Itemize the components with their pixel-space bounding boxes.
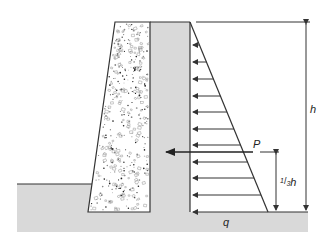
label-p: P [253, 138, 261, 150]
aggregate-speck [139, 94, 141, 96]
aggregate-speck [127, 43, 128, 44]
aggregate-speck [115, 88, 116, 89]
aggregate-speck [90, 205, 91, 206]
aggregate-speck [140, 97, 141, 98]
aggregate-speck [98, 155, 99, 156]
aggregate-speck [136, 107, 138, 109]
aggregate-speck [112, 192, 113, 193]
aggregate-speck [136, 192, 137, 193]
aggregate-speck [147, 27, 149, 29]
aggregate-speck [104, 108, 105, 109]
aggregate-speck [144, 84, 145, 85]
aggregate-speck [136, 56, 138, 58]
aggregate-speck [144, 172, 146, 174]
aggregate-speck [123, 170, 125, 172]
aggregate-speck [114, 171, 115, 172]
aggregate-speck [131, 136, 132, 137]
aggregate-speck [133, 164, 134, 165]
aggregate-speck [100, 199, 101, 200]
aggregate-speck [123, 34, 124, 35]
aggregate-speck [112, 99, 113, 100]
aggregate-speck [114, 64, 116, 66]
aggregate-speck [110, 94, 111, 95]
aggregate-speck [110, 135, 111, 136]
aggregate-speck [120, 26, 121, 27]
aggregate-speck [127, 105, 128, 106]
aggregate-speck [104, 113, 106, 115]
aggregate-speck [110, 172, 111, 173]
aggregate-speck [144, 109, 145, 110]
aggregate-speck [128, 93, 129, 94]
backfill-soil [150, 22, 190, 212]
aggregate-speck [133, 77, 134, 78]
aggregate-speck [137, 183, 138, 184]
aggregate-speck [139, 50, 140, 51]
aggregate-speck [145, 88, 146, 89]
aggregate-speck [138, 114, 139, 115]
aggregate-speck [106, 137, 107, 138]
aggregate-speck [124, 79, 126, 81]
aggregate-speck [139, 51, 140, 52]
aggregate-speck [124, 29, 125, 30]
aggregate-speck [128, 70, 129, 71]
aggregate-speck [111, 149, 112, 150]
aggregate-speck [136, 34, 138, 36]
aggregate-speck [144, 122, 146, 124]
aggregate-speck [114, 152, 116, 154]
aggregate-speck [133, 67, 135, 69]
aggregate-speck [109, 84, 111, 86]
aggregate-speck [135, 67, 136, 68]
aggregate-speck [130, 56, 131, 57]
aggregate-speck [131, 24, 132, 25]
aggregate-speck [121, 114, 123, 116]
aggregate-speck [124, 168, 125, 169]
aggregate-speck [95, 179, 96, 180]
aggregate-speck [120, 111, 121, 112]
aggregate-speck [146, 160, 147, 161]
aggregate-speck [139, 35, 140, 36]
label-one-third-h: 1/3h [280, 176, 296, 188]
aggregate-speck [116, 148, 117, 149]
aggregate-speck [99, 145, 100, 146]
aggregate-speck [118, 49, 119, 50]
aggregate-speck [140, 32, 141, 33]
aggregate-speck [138, 186, 140, 188]
aggregate-speck [119, 72, 121, 74]
aggregate-speck [114, 97, 115, 98]
aggregate-speck [131, 116, 133, 118]
aggregate-speck [109, 111, 111, 113]
aggregate-speck [140, 118, 142, 120]
aggregate-speck [108, 108, 109, 109]
aggregate-speck [126, 23, 128, 25]
aggregate-speck [111, 145, 112, 146]
aggregate-speck [117, 81, 118, 82]
aggregate-speck [91, 203, 92, 204]
aggregate-speck [143, 51, 144, 52]
aggregate-speck [130, 87, 132, 89]
aggregate-speck [139, 60, 141, 62]
aggregate-speck [118, 66, 120, 68]
aggregate-speck [110, 147, 112, 149]
aggregate-speck [100, 192, 101, 193]
aggregate-speck [136, 200, 137, 201]
aggregate-speck [101, 175, 102, 176]
aggregate-speck [127, 155, 128, 156]
aggregate-speck [133, 171, 134, 172]
aggregate-speck [113, 71, 115, 73]
aggregate-speck [133, 71, 134, 72]
aggregate-speck [123, 191, 125, 193]
label-q: q [223, 216, 230, 228]
aggregate-speck [118, 56, 120, 58]
aggregate-speck [120, 96, 121, 97]
aggregate-speck [143, 168, 145, 170]
aggregate-speck [128, 115, 129, 116]
aggregate-speck [122, 100, 123, 101]
aggregate-speck [134, 167, 135, 168]
aggregate-speck [111, 162, 112, 163]
aggregate-speck [116, 187, 117, 188]
aggregate-speck [129, 40, 130, 41]
aggregate-speck [146, 50, 148, 52]
aggregate-speck [144, 83, 145, 84]
aggregate-speck [98, 179, 99, 180]
aggregate-speck [117, 185, 118, 186]
